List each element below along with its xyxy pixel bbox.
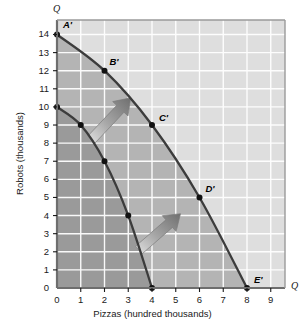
point-label-c-prime: C' [159, 112, 168, 123]
x-tick-label-0: 0 [49, 294, 65, 305]
y-tick-label-12: 12 [33, 65, 49, 76]
x-axis-title: Pizzas (hundred thousands) [0, 308, 305, 319]
y-tick-label-5: 5 [33, 191, 49, 202]
x-tick-label-9: 9 [263, 294, 279, 305]
x-axis-end-marker: Q [291, 280, 298, 291]
y-tick-label-13: 13 [33, 47, 49, 58]
point-label-d-prime: D' [206, 183, 215, 194]
y-tick-label-11: 11 [33, 83, 49, 94]
point-label-a-prime: A' [63, 19, 72, 30]
point-label-b-prime: B' [110, 56, 119, 67]
y-tick-label-14: 14 [33, 28, 49, 39]
y-tick-label-6: 6 [33, 173, 49, 184]
y-tick-label-8: 8 [33, 137, 49, 148]
x-tick-label-2: 2 [97, 294, 113, 305]
point-label-e-prime: E' [254, 274, 263, 285]
x-tick-label-8: 8 [239, 294, 255, 305]
y-tick-label-0: 0 [33, 282, 49, 293]
x-tick-label-1: 1 [73, 294, 89, 305]
y-tick-label-7: 7 [33, 155, 49, 166]
ppf-chart-figure: Robots (thousands) Pizzas (hundred thous… [0, 0, 305, 328]
y-tick-label-10: 10 [33, 101, 49, 112]
y-tick-label-2: 2 [33, 246, 49, 257]
x-tick-label-6: 6 [192, 294, 208, 305]
y-axis-title: Robots (thousands) [14, 79, 25, 229]
y-tick-label-3: 3 [33, 228, 49, 239]
y-tick-label-9: 9 [33, 119, 49, 130]
y-axis-end-marker: Q [53, 3, 60, 14]
y-tick-label-4: 4 [33, 210, 49, 221]
x-tick-label-7: 7 [215, 294, 231, 305]
x-tick-label-4: 4 [144, 294, 160, 305]
y-tick-label-1: 1 [33, 264, 49, 275]
x-tick-label-5: 5 [168, 294, 184, 305]
x-tick-label-3: 3 [120, 294, 136, 305]
